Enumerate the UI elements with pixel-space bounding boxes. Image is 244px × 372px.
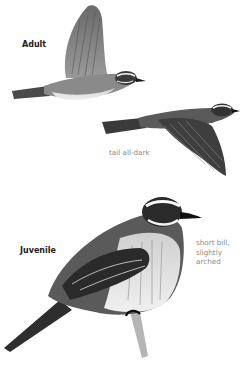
- bill-note-line-3: arched: [196, 257, 230, 267]
- bill-note-line-2: slightly: [196, 248, 230, 258]
- adult-bird-flying-wings-up: [12, 5, 146, 100]
- adult-bird-flying-wings-down: [102, 104, 240, 177]
- bird-plates: [0, 0, 244, 372]
- bill-note: short bill, slightly arched: [196, 238, 230, 267]
- juvenile-label: Juvenile: [20, 246, 56, 255]
- tail-note: tail all-dark: [109, 148, 150, 158]
- juvenile-bird-perched: [4, 197, 202, 358]
- bill-note-line-1: short bill,: [196, 238, 230, 248]
- adult-label: Adult: [22, 40, 46, 49]
